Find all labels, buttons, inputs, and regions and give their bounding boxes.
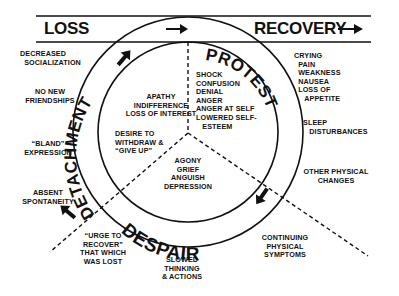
recovery-label: RECOVERY <box>254 20 346 38</box>
protest-symptoms: CRYING PAIN WEAKNESS NAUSEA LOSS OF APPE… <box>294 52 341 104</box>
urge-to-recover: “URGE TO RECOVER” THAT WHICH WAS LOST <box>72 232 134 266</box>
sleep-disturbances: SLEEP DISTURBANCES <box>303 119 368 136</box>
decreased-socialization: DECREASED SOCIALIZATION <box>20 50 81 67</box>
no-new-friendships: NO NEW FRIENDSHIPS <box>20 88 80 105</box>
detachment-feelings: APATHY INDIFFERENCE LOSS OF INTEREST <box>118 93 204 119</box>
arrow-icon <box>166 24 188 34</box>
protest-feelings: SHOCK CONFUSION DENIAL ANGER ANGER AT SE… <box>196 71 257 131</box>
loss-label: LOSS <box>44 20 89 38</box>
other-physical-changes: OTHER PHYSICAL CHANGES <box>296 168 376 185</box>
absent-spontaneity: ABSENT SPONTANEITY <box>18 189 78 206</box>
slowed-thinking: SLOWED THINKING & ACTIONS <box>152 256 212 282</box>
bland-expression: “BLAND” EXPRESSION <box>20 140 76 157</box>
arrow-icon <box>114 46 135 68</box>
continuing-physical-symptoms: CONTINUING PHYSICAL SYMPTOMS <box>250 234 320 260</box>
detachment-desire: DESIRE TO WITHDRAW & “GIVE UP” <box>115 130 164 156</box>
despair-feelings: AGONY GRIEF ANGUISH DEPRESSION <box>150 157 226 191</box>
